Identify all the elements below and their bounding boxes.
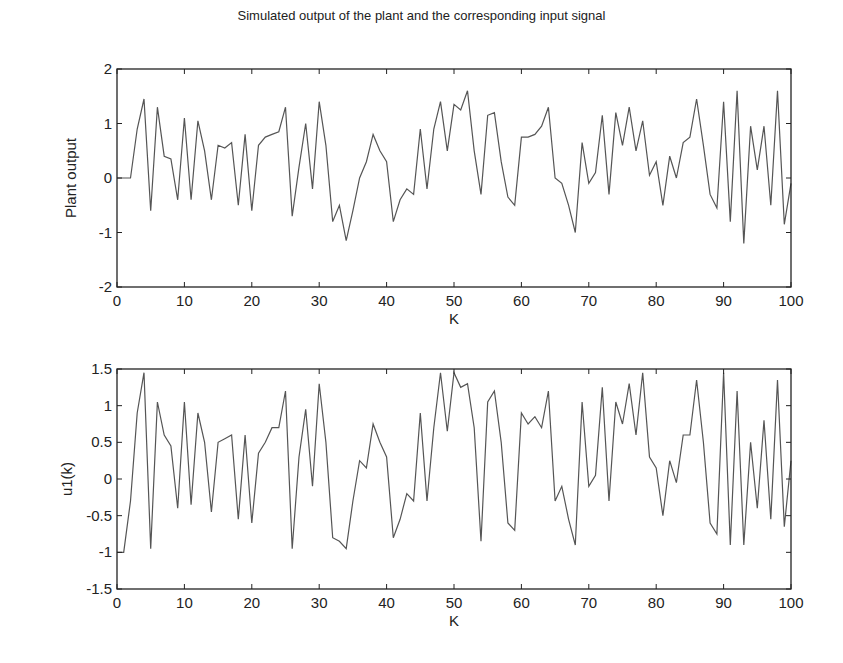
- y-tick-label: 0.5: [91, 433, 112, 450]
- data-line: [117, 91, 791, 244]
- figure: 0102030405060708090100-2-1012KPlant outp…: [0, 0, 843, 663]
- x-tick-label: 40: [378, 292, 395, 309]
- x-tick-label: 50: [446, 292, 463, 309]
- x-tick-label: 0: [113, 292, 121, 309]
- x-tick-label: 80: [648, 594, 665, 611]
- y-axis-label: Plant output: [62, 137, 79, 218]
- x-tick-label: 90: [715, 292, 732, 309]
- x-tick-label: 100: [778, 292, 803, 309]
- x-tick-label: 20: [243, 292, 260, 309]
- x-tick-label: 10: [176, 594, 193, 611]
- axes-input-signal: 0102030405060708090100-1.5-1-0.500.511.5…: [58, 360, 804, 629]
- x-tick-label: 60: [513, 594, 530, 611]
- y-tick-label: -1: [99, 543, 112, 560]
- y-tick-label: -1: [99, 224, 112, 241]
- x-tick-label: 40: [378, 594, 395, 611]
- data-line: [117, 373, 791, 553]
- x-tick-label: 0: [113, 594, 121, 611]
- y-tick-label: 0: [104, 169, 112, 186]
- y-tick-label: 1: [104, 115, 112, 132]
- x-axis-label: K: [449, 612, 459, 629]
- x-tick-label: 80: [648, 292, 665, 309]
- y-tick-label: 1: [104, 397, 112, 414]
- x-tick-label: 70: [580, 292, 597, 309]
- x-axis-label: K: [449, 310, 459, 327]
- y-tick-label: 2: [104, 60, 112, 77]
- x-tick-label: 100: [778, 594, 803, 611]
- y-tick-label: -1.5: [86, 580, 112, 597]
- x-tick-label: 30: [311, 292, 328, 309]
- x-tick-label: 70: [580, 594, 597, 611]
- y-axis-label: u1(k): [58, 462, 75, 496]
- y-tick-label: 0: [104, 470, 112, 487]
- x-tick-label: 20: [243, 594, 260, 611]
- axes-frame: [117, 69, 791, 287]
- axes-plant-output: 0102030405060708090100-2-1012KPlant outp…: [62, 60, 804, 327]
- axes-frame: [117, 369, 791, 589]
- x-tick-label: 60: [513, 292, 530, 309]
- y-tick-label: -2: [99, 278, 112, 295]
- x-tick-label: 30: [311, 594, 328, 611]
- x-tick-label: 90: [715, 594, 732, 611]
- y-tick-label: -0.5: [86, 507, 112, 524]
- x-tick-label: 50: [446, 594, 463, 611]
- x-tick-label: 10: [176, 292, 193, 309]
- y-tick-label: 1.5: [91, 360, 112, 377]
